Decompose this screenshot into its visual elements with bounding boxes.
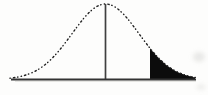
normal-curve-svg: [0, 0, 208, 95]
figure-normal-curve: [0, 0, 208, 95]
shaded-right-tail-region: [150, 48, 195, 79]
